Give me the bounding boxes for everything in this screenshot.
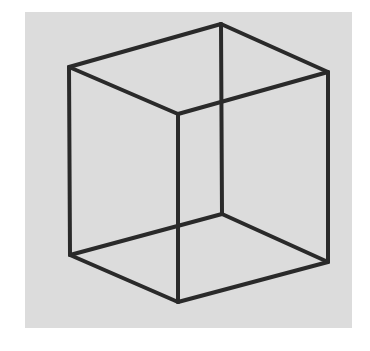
cube-edge-top-right-to-top-front: [178, 72, 328, 114]
cube-edge-top-left-to-bottom-left: [69, 67, 70, 255]
cube-edge-top-left-to-top-back: [69, 24, 221, 67]
cube-edge-top-back-to-top-right: [221, 24, 328, 72]
necker-cube-drawing: [0, 0, 370, 351]
cube-edges: [69, 24, 328, 302]
cube-edge-bottom-back-to-bottom-right: [222, 214, 328, 262]
cube-edge-bottom-right-to-bottom-front: [178, 262, 328, 302]
cube-edge-top-back-to-bottom-back: [221, 24, 222, 214]
cube-edge-bottom-front-to-bottom-left: [70, 255, 178, 302]
cube-edge-bottom-left-to-bottom-back: [70, 214, 222, 255]
cube-edge-top-front-to-top-left: [69, 67, 178, 114]
